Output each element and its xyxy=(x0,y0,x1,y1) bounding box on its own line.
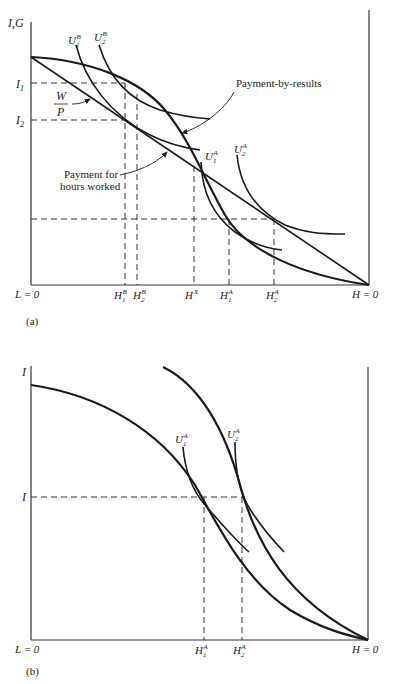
x-left-label-b: L = 0 xyxy=(14,643,40,655)
y-axis-label-b: I xyxy=(21,365,27,379)
x-tick-h1a-b: H1A xyxy=(194,643,208,659)
panel-b-caption: (b) xyxy=(26,665,39,678)
label-wage-numerator: W xyxy=(56,89,67,103)
label-u1a-b: U1A xyxy=(175,432,188,448)
label-u1a: U1A xyxy=(205,149,218,165)
label-u2b: U2B xyxy=(94,30,107,46)
diagram-canvas: I,G I1 I2 U1B U2B U1A U2A W P xyxy=(0,0,397,684)
label-u2a-b: U2A xyxy=(227,427,240,443)
x-left-label: L = 0 xyxy=(14,288,40,300)
payment-hours-arrow xyxy=(120,152,167,175)
indifference-curve-u1a-b xyxy=(183,447,249,552)
panel-a: I,G I1 I2 U1B U2B U1A U2A W P xyxy=(7,10,379,328)
wage-arrow xyxy=(72,99,90,104)
x-tick-h2b: H2B xyxy=(132,288,146,304)
payment-curve-lower-b xyxy=(31,385,368,640)
payment-by-results-arrow xyxy=(182,92,234,133)
annotation-payment-hours-line1: Payment for xyxy=(64,168,118,180)
label-wage-denominator: P xyxy=(56,105,65,119)
y-tick-i2: I2 xyxy=(15,113,24,129)
x-tick-h1b: H1B xyxy=(113,288,127,304)
indifference-curve-u2a xyxy=(237,155,345,234)
annotation-payment-by-results: Payment-by-results xyxy=(236,77,322,89)
x-right-label-b: H = 0 xyxy=(351,643,379,655)
x-tick-hx: HX xyxy=(184,288,199,301)
payment-curve-upper-b xyxy=(163,367,368,640)
label-u1b: U1B xyxy=(68,33,81,49)
x-tick-h2a-b: H2A xyxy=(232,643,246,659)
x-right-label: H = 0 xyxy=(351,288,379,300)
indifference-curve-u2b xyxy=(99,45,210,119)
panel-a-caption: (a) xyxy=(26,315,39,328)
x-tick-h2a: H2A xyxy=(265,288,279,304)
x-tick-h1a: H1A xyxy=(219,288,233,304)
y-axis-label: I,G xyxy=(7,16,24,30)
label-u2a: U2A xyxy=(234,142,247,158)
y-tick-i-b: I xyxy=(21,490,27,504)
y-tick-i1: I1 xyxy=(15,77,24,93)
panel-b: I I U1A U2A L = 0 H = 0 H1A H2A (b) xyxy=(14,365,379,678)
annotation-payment-hours-line2: hours worked xyxy=(60,180,121,192)
